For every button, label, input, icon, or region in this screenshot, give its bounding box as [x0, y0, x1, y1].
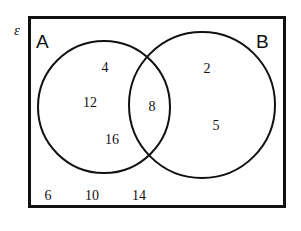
outside-value: 6 [45, 189, 52, 203]
venn-diagram-figure: ε A B 4 12 16 8 2 5 6 10 14 [0, 0, 301, 231]
a-only-value: 12 [83, 96, 97, 110]
outside-value: 10 [85, 189, 99, 203]
set-a-label: A [36, 32, 49, 51]
outside-value: 14 [132, 189, 146, 203]
a-only-value: 16 [105, 133, 119, 147]
a-only-value: 4 [102, 61, 109, 75]
set-b-label: B [256, 32, 269, 51]
universal-set-label: ε [14, 23, 20, 38]
intersection-value: 8 [149, 100, 156, 114]
b-only-value: 5 [213, 119, 220, 133]
b-only-value: 2 [204, 62, 211, 76]
